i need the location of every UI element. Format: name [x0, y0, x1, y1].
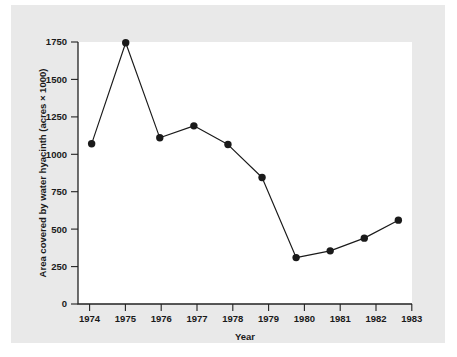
- data-point: [190, 122, 197, 129]
- y-tick-label: 1750: [46, 36, 67, 47]
- data-point: [395, 216, 402, 223]
- data-point: [361, 234, 368, 241]
- x-tick-label: 1975: [115, 313, 137, 324]
- x-tick-label: 1980: [294, 313, 315, 324]
- figure-container: 0 250 500 750 1000 1250 1500 1750 1974 1…: [0, 0, 457, 357]
- y-tick-label: 1000: [46, 149, 67, 160]
- y-axis-ticks: [71, 42, 78, 304]
- y-tick-label: 500: [51, 224, 67, 235]
- x-tick-label: 1981: [330, 313, 352, 324]
- x-axis-tick-labels: 1974 1975 1976 1977 1978 1979 1980 1981 …: [79, 313, 422, 324]
- x-tick-label: 1979: [258, 313, 279, 324]
- data-point: [258, 174, 265, 181]
- x-axis-ticks: [90, 304, 412, 311]
- data-point: [122, 39, 129, 46]
- data-point: [224, 141, 231, 148]
- x-tick-label: 1976: [151, 313, 172, 324]
- y-axis-tick-labels: 0 250 500 750 1000 1250 1500 1750: [46, 36, 67, 309]
- x-tick-label: 1977: [186, 313, 207, 324]
- y-tick-label: 1250: [46, 111, 67, 122]
- x-tick-label: 1982: [365, 313, 386, 324]
- plot-area: [78, 42, 412, 304]
- y-axis-title: Area covered by water hyacinth (acres × …: [37, 69, 48, 278]
- y-tick-label: 0: [62, 298, 67, 309]
- y-tick-label: 750: [51, 186, 67, 197]
- data-point: [292, 254, 299, 261]
- x-tick-label: 1978: [222, 313, 243, 324]
- data-point: [88, 140, 95, 147]
- y-tick-label: 250: [51, 261, 67, 272]
- data-point: [156, 134, 163, 141]
- x-tick-label: 1983: [401, 313, 422, 324]
- y-tick-label: 1500: [46, 74, 67, 85]
- x-tick-label: 1974: [79, 313, 101, 324]
- data-point: [327, 247, 334, 254]
- x-axis-title: Year: [235, 331, 255, 342]
- line-chart: 0 250 500 750 1000 1250 1500 1750 1974 1…: [0, 0, 457, 357]
